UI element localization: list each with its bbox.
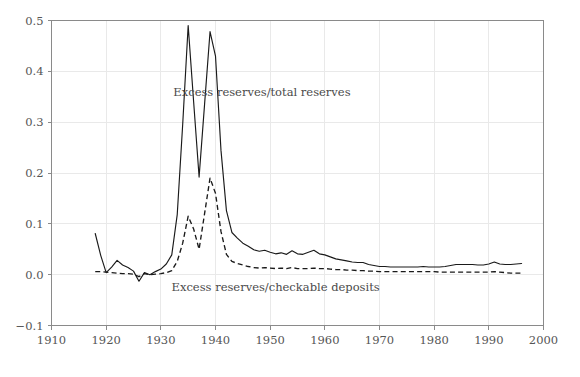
series-line-0 <box>95 26 521 282</box>
series-annotations: Excess reserves/total reservesExcess res… <box>172 85 380 294</box>
x-tick-label-7: 1980 <box>420 333 449 347</box>
x-tick-label-3: 1940 <box>201 333 230 347</box>
x-tick-label-5: 1960 <box>310 333 339 347</box>
y-tick-label-1: 0.0 <box>25 268 43 282</box>
y-tick-label-3: 0.2 <box>25 166 43 180</box>
x-tick-label-8: 1990 <box>474 333 503 347</box>
y-tick-label-6: 0.5 <box>25 14 43 28</box>
series-annotation-0: Excess reserves/total reserves <box>173 85 350 99</box>
chart-container: 1910192019301940195019601970198019902000… <box>0 0 580 377</box>
x-tick-label-4: 1950 <box>256 333 285 347</box>
x-tick-label-0: 1910 <box>37 333 66 347</box>
x-tick-label-1: 1920 <box>92 333 121 347</box>
series-annotation-1: Excess reserves/checkable deposits <box>172 280 380 294</box>
x-tick-label-9: 2000 <box>529 333 558 347</box>
x-tick-label-6: 1970 <box>365 333 394 347</box>
x-axis-tick-labels: 1910192019301940195019601970198019902000 <box>37 333 558 347</box>
data-series-layer <box>95 26 521 282</box>
y-tick-label-0: −0.1 <box>16 319 44 333</box>
y-tick-label-4: 0.3 <box>25 115 43 129</box>
y-tick-label-2: 0.1 <box>25 217 43 231</box>
line-chart: 1910192019301940195019601970198019902000… <box>0 0 580 377</box>
y-tick-label-5: 0.4 <box>25 64 43 78</box>
series-line-1 <box>95 178 521 277</box>
y-axis-tick-labels: −0.10.00.10.20.30.40.5 <box>16 14 44 333</box>
x-tick-label-2: 1930 <box>146 333 175 347</box>
